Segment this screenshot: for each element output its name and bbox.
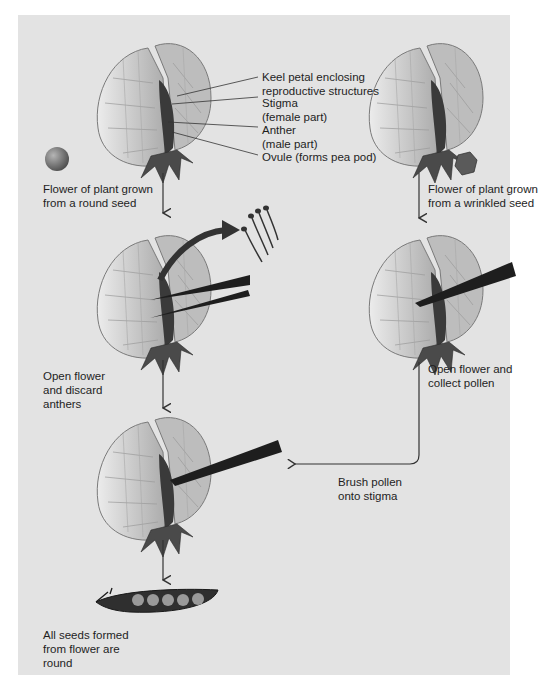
flower-emasculated-illustration [97, 236, 211, 375]
wrinkled-seed-icon [455, 152, 477, 175]
label-ovule: Ovule (forms pea pod) [262, 150, 376, 164]
caption-collect-pollen: Open flower and collect pollen [428, 362, 512, 390]
label-stigma: Stigma (female part) [262, 96, 327, 124]
pea-pod-illustration [96, 588, 218, 612]
caption-wrinkled-seed-flower: Flower of plant grown from a wrinkled se… [428, 182, 538, 210]
transfer-pollen-arrow [295, 362, 419, 464]
caption-result-round-seeds: All seeds formed from flower are round [43, 628, 129, 670]
caption-brush-pollen: Brush pollen onto stigma [338, 475, 402, 503]
caption-discard-anthers: Open flower and discard anthers [43, 369, 105, 411]
label-keel-petal: Keel petal enclosing reproductive struct… [262, 70, 379, 98]
flower-pollinated-illustration [97, 418, 211, 557]
flower-pollen-donor-illustration [369, 236, 483, 375]
round-seed-icon [45, 147, 69, 171]
flower-round-parent-illustration [97, 44, 211, 183]
caption-round-seed-flower: Flower of plant grown from a round seed [43, 182, 153, 210]
label-anther: Anther (male part) [262, 123, 318, 151]
